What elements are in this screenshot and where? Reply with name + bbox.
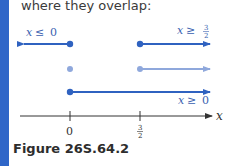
label-x-ge-three-halves: x ≥ bbox=[177, 24, 195, 37]
ray-x-ge-0: x ≥ 0 bbox=[67, 89, 210, 107]
ray-x-ge-three-halves: x ≥ 3 2 bbox=[137, 24, 210, 47]
tick-label-den: 2 bbox=[138, 132, 142, 140]
svg-text:2: 2 bbox=[204, 32, 208, 40]
label-x-ge-0: x ≥ 0 bbox=[178, 94, 209, 107]
tick-label-num: 3 bbox=[138, 124, 142, 132]
number-line-axis: x 0 3 2 bbox=[20, 109, 223, 140]
overlap-point bbox=[67, 66, 73, 72]
ray-x-le-0: x ≤ 0 bbox=[24, 26, 73, 47]
figure-caption: Figure 26S.64.2 bbox=[13, 141, 129, 156]
overlap-row bbox=[67, 66, 210, 72]
tick-label-0: 0 bbox=[66, 125, 73, 138]
axis-variable: x bbox=[216, 109, 223, 123]
svg-text:3: 3 bbox=[204, 24, 208, 32]
label-x-le-0: x ≤ 0 bbox=[26, 26, 57, 39]
